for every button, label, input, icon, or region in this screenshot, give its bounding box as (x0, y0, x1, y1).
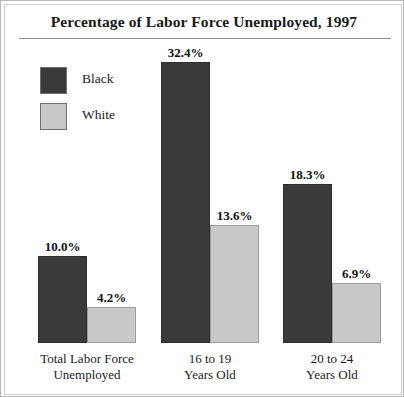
bar-value-white-0: 4.2% (75, 290, 148, 306)
bar-value-white-2: 6.9% (320, 266, 393, 282)
chart-frame: Percentage of Labor Force Unemployed, 19… (0, 0, 404, 397)
bar-value-black-1: 32.4% (149, 45, 222, 61)
bar-value-white-1: 13.6% (198, 208, 271, 224)
bar-white-1 (210, 225, 259, 343)
bar-black-1 (161, 62, 210, 343)
bar-white-2 (332, 283, 381, 343)
category-label-line: 20 to 24 (253, 351, 404, 367)
chart-frame-inner: Percentage of Labor Force Unemployed, 19… (4, 4, 402, 395)
category-label-2: 20 to 24Years Old (253, 351, 404, 383)
bar-black-2 (283, 184, 332, 343)
bar-value-black-0: 10.0% (26, 239, 99, 255)
bar-chart-plot: 10.0%4.2%Total Labor ForceUnemployed32.4… (5, 5, 404, 397)
bar-value-black-2: 18.3% (271, 167, 344, 183)
bar-white-0 (87, 307, 136, 343)
category-label-line: Years Old (253, 367, 404, 383)
